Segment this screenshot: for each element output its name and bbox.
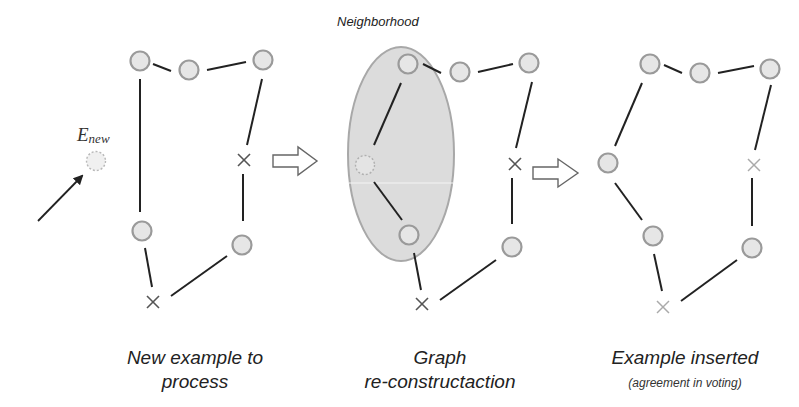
edges <box>615 65 771 301</box>
cross-icon <box>416 298 428 310</box>
node-circle <box>503 238 522 257</box>
node-circle <box>644 227 663 246</box>
cross-icon <box>748 159 760 171</box>
new-example-dashed-circle <box>356 156 375 175</box>
caption-line-2: process <box>95 370 295 394</box>
node-circle <box>520 54 539 73</box>
node-circle <box>233 236 252 255</box>
node-circle <box>400 226 419 245</box>
new-example-symbol: E <box>77 124 89 145</box>
caption-line-1: Example inserted <box>585 346 785 370</box>
node-circle <box>399 55 418 74</box>
panel-1-graph <box>38 51 273 309</box>
caption-panel-1: New example to process <box>95 346 295 394</box>
neighborhood-label: Neighborhood <box>337 14 419 29</box>
caption-line-2: re-constructaction <box>330 370 550 394</box>
cross-icon <box>657 301 669 313</box>
hollow-arrow-right-icon <box>273 147 317 175</box>
hollow-arrow-right-icon <box>533 159 578 187</box>
cross-icon <box>238 154 250 166</box>
inserted-node-circle <box>599 154 618 173</box>
cross-icon <box>147 296 159 308</box>
new-example-label: Enew <box>77 124 110 147</box>
incoming-arrow-icon <box>38 176 82 221</box>
caption-panel-2: Graph re-constructaction <box>330 346 550 394</box>
node-circle <box>691 64 710 83</box>
caption-panel-3: Example inserted (agreement in voting) <box>585 346 785 392</box>
node-circle <box>743 239 762 258</box>
cross-icon <box>509 158 521 170</box>
caption-line-1: New example to <box>95 346 295 370</box>
node-circle <box>131 52 150 71</box>
node-circle <box>180 61 199 80</box>
node-circle <box>641 55 660 74</box>
caption-line-1: Graph <box>330 346 550 370</box>
panel-3-graph <box>599 55 780 314</box>
caption-subtitle: (agreement in voting) <box>585 374 785 392</box>
new-example-dashed-circle <box>87 152 106 171</box>
new-example-subscript: new <box>89 131 110 146</box>
node-circle <box>254 51 273 70</box>
edges <box>140 62 262 296</box>
panel-2-graph <box>348 47 539 310</box>
node-circle <box>451 63 470 82</box>
node-circle <box>761 60 780 79</box>
node-circle <box>133 222 152 241</box>
